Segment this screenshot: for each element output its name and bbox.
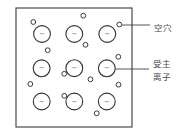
hole-circle [94, 111, 99, 116]
acceptor-ion: − [34, 26, 51, 43]
acceptor-ion: − [98, 93, 115, 110]
semiconductor-acceptor-diagram: −−−−−−−−− 空穴 受主 离子 [0, 0, 181, 137]
acceptor-ion: − [33, 60, 50, 77]
hole-circle [62, 93, 67, 98]
negative-charge-icon: − [39, 30, 45, 38]
hole-circle [117, 22, 122, 27]
hole-circle [88, 77, 93, 82]
negative-charge-icon: − [71, 30, 77, 38]
hole-circle [31, 20, 36, 25]
acceptor-ion: − [66, 93, 83, 110]
negative-charge-icon: − [104, 30, 110, 38]
acceptor-ion-label-line2: 离子 [153, 72, 171, 82]
hole-circle [83, 42, 88, 47]
acceptor-ion: − [99, 26, 116, 43]
negative-charge-icon: − [39, 64, 45, 72]
negative-charge-icon: − [39, 98, 45, 106]
negative-charge-icon: − [71, 64, 77, 72]
acceptor-ion: − [66, 60, 83, 77]
acceptor-ion: − [33, 93, 50, 110]
hole-circle [28, 82, 33, 87]
hole-circle [81, 13, 86, 18]
acceptor-ion-label-line1: 受主 [153, 59, 171, 69]
acceptor-ion: − [66, 26, 83, 43]
acceptor-ion: − [98, 60, 115, 77]
hole-label: 空穴 [154, 23, 172, 33]
hole-circle [45, 48, 50, 53]
negative-charge-icon: − [71, 98, 77, 106]
negative-charge-icon: − [104, 64, 110, 72]
hole-circle [116, 82, 121, 87]
hole-circle [116, 54, 121, 59]
acceptor-ions-group: −−−−−−−−− [33, 26, 116, 110]
hole-circle [62, 71, 67, 76]
negative-charge-icon: − [104, 98, 110, 106]
